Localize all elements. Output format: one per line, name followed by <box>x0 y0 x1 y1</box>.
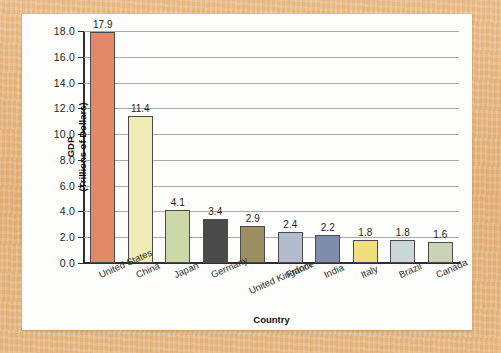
bar-slot: 2.2 <box>315 31 340 263</box>
bar-value-label: 2.2 <box>321 222 335 233</box>
bar-series: 17.911.44.13.42.92.42.21.81.81.6 <box>84 31 459 263</box>
bar[interactable] <box>278 232 303 263</box>
y-axis-tick-label: 16.0 <box>54 51 75 63</box>
y-axis-tick-label: 0.0 <box>60 257 75 269</box>
bar-value-label: 4.1 <box>171 197 185 208</box>
plot-area: 0.02.04.06.08.010.012.014.016.018.0 GDP … <box>84 31 459 263</box>
bar-slot: 1.8 <box>390 31 415 263</box>
chart-card: 0.02.04.06.08.010.012.014.016.018.0 GDP … <box>22 14 472 330</box>
bar[interactable] <box>165 210 190 263</box>
bar-value-label: 3.4 <box>208 206 222 217</box>
y-axis-tick-label: 14.0 <box>54 77 75 89</box>
bar[interactable] <box>353 240 378 263</box>
bar[interactable] <box>90 32 115 263</box>
bar-value-label: 2.9 <box>246 213 260 224</box>
bar[interactable] <box>390 240 415 263</box>
bar-slot: 4.1 <box>165 31 190 263</box>
bar[interactable] <box>315 235 340 263</box>
bar-value-label: 11.4 <box>131 103 150 114</box>
x-axis-title: Country <box>84 314 459 325</box>
bar-value-label: 1.8 <box>396 227 410 238</box>
x-axis-tick-label: Italy <box>359 263 379 280</box>
bar-slot: 2.4 <box>278 31 303 263</box>
bar-slot: 1.6 <box>428 31 453 263</box>
bar-slot: 2.9 <box>240 31 265 263</box>
bar-slot: 1.8 <box>353 31 378 263</box>
bar-slot: 17.9 <box>90 31 115 263</box>
bar[interactable] <box>128 116 153 263</box>
x-axis-tick-label: India <box>322 262 345 280</box>
bar[interactable] <box>203 219 228 263</box>
bar-value-label: 2.4 <box>283 219 297 230</box>
y-axis-tick-label: 18.0 <box>54 25 75 37</box>
y-axis-tick-label: 2.0 <box>60 231 75 243</box>
bar-value-label: 1.6 <box>433 229 447 240</box>
bar-value-label: 17.9 <box>93 19 112 30</box>
bar-slot: 11.4 <box>128 31 153 263</box>
y-axis-title-line1: GDP <box>65 137 76 158</box>
bar-value-label: 1.8 <box>358 227 372 238</box>
bar[interactable] <box>428 242 453 263</box>
bar-slot: 3.4 <box>203 31 228 263</box>
y-axis-tick <box>78 263 84 264</box>
y-axis-tick-label: 4.0 <box>60 205 75 217</box>
poster-frame: 0.02.04.06.08.010.012.014.016.018.0 GDP … <box>0 0 501 353</box>
